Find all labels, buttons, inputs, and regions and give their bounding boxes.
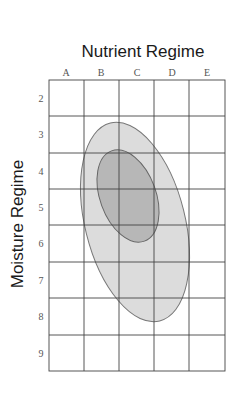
row-label-2: 2 [39,93,44,104]
col-label-e: E [204,67,210,78]
row-label-7: 7 [39,275,44,286]
col-label-b: B [98,67,105,78]
row-label-3: 3 [39,129,44,140]
row-label-8: 8 [39,311,44,322]
col-label-a: A [62,67,70,78]
row-label-5: 5 [39,202,44,213]
row-label-4: 4 [39,166,44,177]
row-label-6: 6 [39,238,44,249]
col-label-c: C [134,67,141,78]
edatopic-grid: A B C D E 2 3 4 5 6 7 8 9 [0,0,244,394]
row-label-9: 9 [39,348,44,359]
col-label-d: D [168,67,175,78]
